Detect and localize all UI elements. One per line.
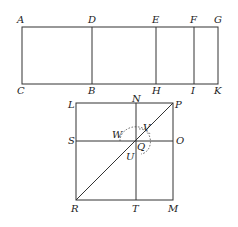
label-M: M bbox=[167, 203, 179, 214]
diagonal-RP bbox=[76, 103, 173, 200]
label-N: N bbox=[131, 93, 142, 104]
label-T: T bbox=[132, 203, 140, 214]
label-E: E bbox=[151, 14, 160, 25]
label-H: H bbox=[151, 85, 161, 96]
label-C: C bbox=[17, 85, 25, 96]
label-F: F bbox=[189, 14, 198, 25]
label-S: S bbox=[68, 135, 75, 146]
label-R: R bbox=[70, 203, 79, 214]
top-figure: A D E F G C B H I K bbox=[16, 14, 222, 96]
rectangle-ACKG bbox=[22, 27, 218, 84]
label-G: G bbox=[214, 14, 222, 25]
geometry-diagram: A D E F G C B H I K L N P S O W V Q U R … bbox=[0, 0, 238, 227]
label-P: P bbox=[174, 99, 182, 110]
label-Q: Q bbox=[137, 141, 145, 152]
label-I: I bbox=[190, 85, 196, 96]
label-W: W bbox=[112, 129, 123, 140]
bottom-figure: L N P S O W V Q U R T M bbox=[67, 93, 184, 214]
label-V: V bbox=[143, 122, 152, 133]
label-D: D bbox=[87, 14, 96, 25]
label-L: L bbox=[67, 99, 75, 110]
label-A: A bbox=[16, 14, 24, 25]
label-K: K bbox=[213, 85, 222, 96]
label-U: U bbox=[126, 151, 135, 162]
label-O: O bbox=[176, 135, 184, 146]
label-B: B bbox=[87, 85, 95, 96]
